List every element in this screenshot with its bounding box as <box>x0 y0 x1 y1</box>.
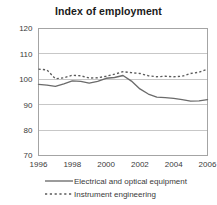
legend-label-0: Electrical and optical equipment <box>74 177 188 186</box>
chart-plot-area: 708090100110120 199619982000200220042006… <box>0 0 217 205</box>
chart-figure: Index of employment 708090100110120 1996… <box>0 0 217 205</box>
y-tick-label-90: 90 <box>24 101 33 110</box>
x-tick-label-1996: 1996 <box>30 160 48 169</box>
plot-frame <box>39 29 208 156</box>
legend-label-1: Instrument engineering <box>74 190 156 199</box>
y-tick-label-120: 120 <box>19 24 33 33</box>
y-tick-label-100: 100 <box>19 75 33 84</box>
series-line-1 <box>39 69 208 79</box>
x-tick-label-2000: 2000 <box>97 160 115 169</box>
y-axis-tick-labels: 708090100110120 <box>19 24 33 160</box>
chart-legend: Electrical and optical equipmentInstrume… <box>45 177 188 199</box>
x-axis-tick-labels: 199619982000200220042006 <box>30 160 217 169</box>
data-series-group <box>39 69 208 101</box>
y-tick-label-110: 110 <box>20 50 33 59</box>
x-tick-label-2006: 2006 <box>199 160 217 169</box>
x-tick-label-2002: 2002 <box>131 160 149 169</box>
gridlines-group <box>39 54 208 130</box>
x-tick-label-2004: 2004 <box>165 160 183 169</box>
y-tick-label-80: 80 <box>24 126 33 135</box>
x-tick-label-1998: 1998 <box>63 160 81 169</box>
